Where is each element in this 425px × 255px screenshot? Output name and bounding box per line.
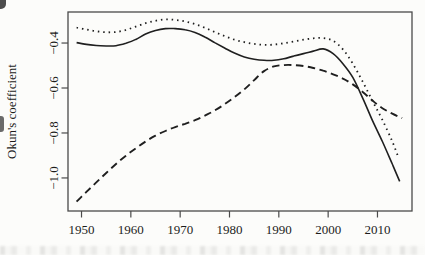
- x-axis: 1950196019701980199020002010: [69, 211, 391, 237]
- x-tick-label: 1980: [216, 222, 242, 237]
- y-axis: −0.4−0.6−0.8−1.0: [46, 31, 68, 190]
- x-tick-label: 1990: [266, 222, 292, 237]
- x-tick-label: 1950: [69, 222, 95, 237]
- y-tick-label: −0.6: [46, 76, 61, 100]
- series-dashed-line: [77, 65, 403, 202]
- okun-coefficient-chart: 1950196019701980199020002010 −0.4−0.6−0.…: [0, 0, 425, 255]
- x-tick-label: 1970: [167, 222, 193, 237]
- x-tick-label: 2010: [364, 222, 390, 237]
- scan-noise-band: [0, 246, 425, 255]
- y-tick-label: −1.0: [46, 166, 61, 190]
- y-tick-label: −0.4: [46, 31, 61, 55]
- y-axis-title: Okun's coefficient: [4, 64, 19, 159]
- scan-artifact-left-edge: [0, 116, 4, 132]
- series-dotted-line: [77, 19, 399, 158]
- y-tick-label: −0.8: [46, 121, 61, 145]
- x-tick-label: 1960: [118, 222, 144, 237]
- plot-border: [68, 12, 412, 211]
- x-tick-label: 2000: [315, 222, 341, 237]
- series-solid-line: [77, 28, 400, 181]
- scanned-figure-page: 1950196019701980199020002010 −0.4−0.6−0.…: [0, 0, 425, 255]
